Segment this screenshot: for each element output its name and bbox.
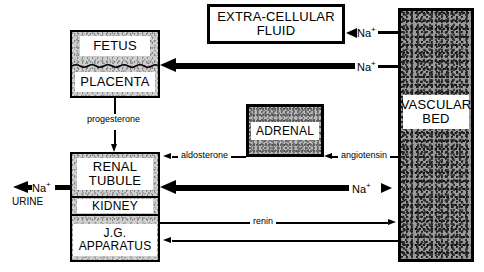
na-placenta-arrowhead [160, 58, 176, 72]
na-charge: + [371, 59, 376, 68]
na-charge: + [366, 181, 371, 190]
urine-label: URINE [12, 196, 43, 207]
na-label-ecf: Na+ [357, 25, 376, 39]
na-label-urine: Na+ [32, 180, 51, 194]
na-tubule-vascular-line [175, 185, 349, 191]
fetus-placenta-divider [72, 62, 158, 70]
progesterone-label: progesterone [84, 114, 143, 124]
na-text: Na [352, 183, 366, 195]
na-text: Na [357, 61, 371, 73]
extracellular-fluid-label: EXTRA-CELLULAR FLUID [211, 8, 341, 40]
na-text: Na [32, 182, 46, 194]
adrenal-label: ADRENAL [251, 122, 319, 140]
renal-tubule-label: RENAL TUBULE [77, 158, 153, 190]
na-charge: + [371, 25, 376, 34]
progesterone-line-lower [114, 130, 116, 145]
na-charge: + [46, 180, 51, 189]
vascular-to-jg-line [172, 240, 398, 242]
vascular-to-jg-arrowhead [163, 237, 171, 243]
diagram-canvas: FETUS PLACENTA EXTRA-CELLULAR FLUID VASC… [0, 0, 484, 272]
na-urine-line-inner [28, 185, 32, 190]
placenta-label: PLACENTA [75, 72, 155, 92]
angiotensin-arrowhead [324, 153, 332, 159]
renin-arrowhead [388, 219, 396, 225]
vascular-bed-label: VASCULAR BED [403, 95, 469, 129]
vascular-bed-box [398, 8, 474, 262]
na-ecf-arrowhead [346, 28, 357, 38]
na-label-tubule-vascular: Na+ [352, 181, 371, 195]
na-placenta-line-main [175, 63, 355, 69]
progesterone-arrowhead [111, 144, 117, 152]
renin-label: renin [250, 216, 276, 226]
na-urine-line [55, 185, 70, 190]
na-vascular-arrowhead-right [381, 183, 392, 193]
aldosterone-label: aldosterone [178, 150, 231, 160]
kidney-label: KIDNEY [77, 199, 153, 213]
na-ecf-line-right [378, 31, 400, 34]
fetus-label: FETUS [80, 36, 150, 56]
aldosterone-arrowhead [163, 153, 171, 159]
na-urine-arrowhead [13, 181, 28, 193]
na-text: Na [357, 27, 371, 39]
angiotensin-label: angiotensin [338, 150, 390, 160]
na-label-placenta: Na+ [357, 59, 376, 73]
na-tubule-arrowhead-left [160, 180, 176, 194]
renal-tubule-kidney-divider [70, 196, 160, 198]
jg-apparatus-label: J.G. APPARATUS [73, 224, 157, 256]
na-placenta-line-right [378, 65, 400, 68]
kidney-jg-divider [70, 214, 160, 216]
